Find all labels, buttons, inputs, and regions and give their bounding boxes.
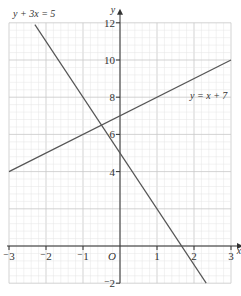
y-axis-arrow-icon [117,9,123,15]
series-label-1: y + 3x = 5 [12,8,55,19]
x-tick-label: ⁻1 [77,250,89,262]
y-tick-label: 6 [110,128,116,140]
axes [7,9,241,283]
x-tick-label: ⁻2 [40,250,52,262]
x-axis-label: x [236,245,241,256]
series-label-2: y = x + 7 [189,90,228,101]
y-tick-label: 8 [110,91,116,103]
x-tick-label: ⁻3 [3,250,15,262]
origin-label: O [108,250,116,262]
y-axis-label: y [110,4,116,15]
y-tick-label: 10 [104,54,116,66]
y-tick-label: ⁻2 [104,277,116,289]
y-tick-label: 4 [110,166,116,178]
y-tick-label: 12 [104,17,115,29]
graph: ⁻3⁻2⁻1123⁻24681012Oyxy + 3x = 5y = x + 7 [0,0,241,296]
x-tick-label: 2 [191,250,197,262]
x-tick-label: 1 [154,250,160,262]
x-tick-label: 3 [228,250,234,262]
